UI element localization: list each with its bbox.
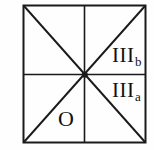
- sector-label-three-a-base: III: [112, 78, 134, 102]
- sector-label-o-base: O: [58, 106, 74, 131]
- sector-label-three-b-base: III: [112, 43, 134, 67]
- sector-label-three-a: IIIa: [112, 80, 141, 103]
- sector-label-three-b-subscript: b: [135, 54, 142, 69]
- sector-diagram-figure: IIIb IIIa O: [0, 0, 154, 150]
- diagram-canvas: [0, 0, 154, 150]
- center-point-dot: [82, 72, 88, 78]
- sector-label-three-a-subscript: a: [135, 89, 141, 104]
- sector-label-three-b: IIIb: [112, 45, 141, 68]
- sector-label-o: O: [58, 108, 74, 130]
